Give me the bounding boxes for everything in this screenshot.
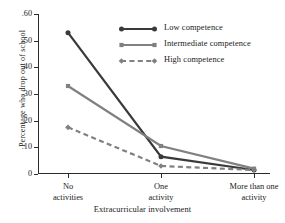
legend-swatch: [118, 53, 158, 65]
x-axis-title: Extracurricular involvement: [0, 205, 285, 214]
square-marker: [119, 43, 123, 47]
legend-item-3: High competence: [118, 51, 251, 67]
y-tick-label: .30: [22, 90, 32, 98]
square-marker: [152, 43, 156, 47]
circle-marker: [119, 27, 124, 32]
y-tick-label: .40: [22, 63, 32, 71]
legend-item-2: Intermediate competence: [118, 35, 251, 51]
circle-marker: [66, 30, 71, 35]
square-marker: [159, 144, 163, 148]
circle-marker: [159, 154, 164, 159]
x-tick-label: More than oneactivity: [211, 182, 285, 203]
legend-item-1: Low competence: [118, 19, 251, 35]
legend-swatch: [118, 37, 158, 49]
x-tick-label: Oneactivity: [118, 182, 204, 203]
dropout-rate-line-chart: Percentage who drop out of school .60.50…: [0, 0, 285, 223]
y-tick-label: .20: [22, 117, 32, 125]
square-marker: [66, 84, 70, 88]
legend-label: Intermediate competence: [164, 39, 251, 48]
x-tick-label: Noactivities: [25, 182, 111, 203]
y-tick-label: 0: [28, 170, 32, 178]
y-tick: [34, 174, 39, 175]
diamond-marker: [119, 58, 125, 64]
chart-legend: Low competenceIntermediate competenceHig…: [118, 19, 251, 67]
diamond-marker: [152, 58, 158, 64]
legend-label: Low competence: [164, 23, 223, 32]
legend-label: High competence: [164, 55, 224, 64]
y-tick-label: .50: [22, 37, 32, 45]
y-tick-label: .10: [22, 143, 32, 151]
y-tick-label: .60: [22, 10, 32, 18]
diamond-marker: [158, 163, 164, 169]
circle-marker: [152, 27, 157, 32]
legend-swatch: [118, 21, 158, 33]
